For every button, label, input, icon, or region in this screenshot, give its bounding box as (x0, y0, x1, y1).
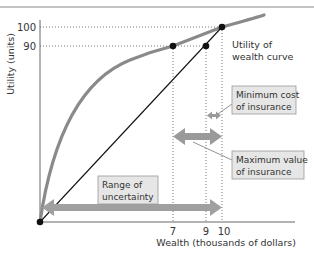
y-axis-label: Utility (units) (5, 33, 16, 95)
max-value-line2: of insurance (236, 167, 292, 177)
maximum-value-arrow (173, 128, 222, 145)
x-tick-9: 9 (203, 226, 209, 237)
curve-label-line1: Utility of (232, 39, 273, 50)
min-cost-line2: of insurance (236, 102, 292, 112)
minimum-cost-arrow (207, 112, 221, 120)
x-tick-7: 7 (170, 226, 176, 237)
y-tick-90: 90 (23, 41, 36, 52)
y-tick-100: 100 (17, 22, 36, 33)
range-line1: Range of (102, 180, 143, 190)
max-value-line1: Maximum value (236, 155, 308, 165)
range-line2: uncertainty (102, 192, 154, 202)
utility-of-wealth-chart: Utility (units) 100 90 7 9 10 Wealth (th… (0, 0, 314, 256)
x-axis-label: Wealth (thousands of dollars) (156, 237, 296, 248)
curve-label-line2: wealth curve (232, 51, 294, 62)
min-cost-line1: Minimum cost (236, 90, 300, 100)
x-tick-10: 10 (218, 226, 231, 237)
